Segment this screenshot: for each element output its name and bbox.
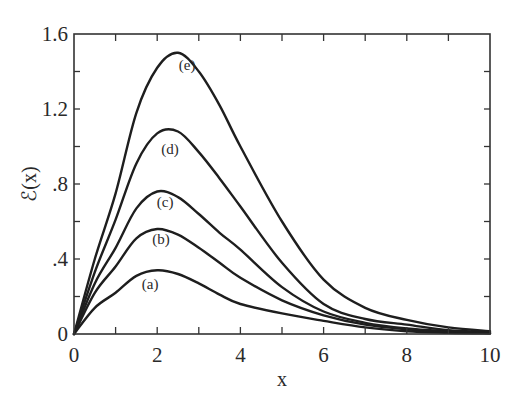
y-tick-label: .4: [52, 247, 68, 271]
y-tick-labels: 0.4.81.21.6: [42, 22, 69, 346]
x-tick-labels: 0246810: [69, 343, 501, 367]
chart: 0246810 0.4.81.21.6 (a)(b)(c)(d)(e) x ℰ(…: [0, 0, 521, 400]
x-tick-label: 0: [69, 343, 80, 367]
curve-b: [74, 229, 490, 334]
curve-label-c: (c): [157, 194, 174, 211]
curve-label-e: (e): [179, 57, 196, 74]
curve-d: [74, 129, 490, 334]
curve-label-b: (b): [152, 231, 170, 248]
plot-frame: [74, 34, 490, 334]
x-axis-title: x: [277, 368, 287, 390]
x-tick-label: 10: [480, 343, 501, 367]
y-tick-label: 1.6: [42, 22, 68, 46]
x-tick-label: 8: [402, 343, 413, 367]
y-tick-label: 1.2: [42, 97, 68, 121]
axis-ticks: [74, 34, 490, 334]
curves-group: [74, 53, 490, 334]
x-tick-label: 2: [152, 343, 163, 367]
x-tick-label: 6: [318, 343, 329, 367]
y-tick-label: 0: [58, 322, 69, 346]
y-tick-label: .8: [52, 172, 68, 196]
curve-labels: (a)(b)(c)(d)(e): [142, 57, 196, 293]
x-tick-label: 4: [235, 343, 246, 367]
curve-e: [74, 53, 490, 334]
curve-label-d: (d): [161, 141, 179, 158]
y-axis-title: ℰ(x): [18, 166, 41, 201]
curve-label-a: (a): [142, 276, 159, 293]
